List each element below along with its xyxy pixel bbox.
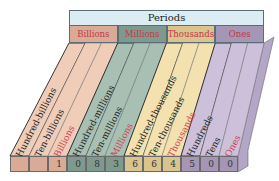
periods-header: Periods bbox=[69, 10, 264, 26]
digit-cell: 4 bbox=[162, 156, 181, 172]
digit-cell: 3 bbox=[105, 156, 124, 172]
digit-cell: 0 bbox=[219, 156, 238, 172]
digit-cell: 0 bbox=[200, 156, 219, 172]
digit-cell: 6 bbox=[124, 156, 143, 172]
digit-cell: 5 bbox=[181, 156, 200, 172]
digit-cell: 8 bbox=[86, 156, 105, 172]
digit-cell bbox=[29, 156, 48, 172]
period-millions: Millions bbox=[118, 26, 167, 43]
digit-cell: 0 bbox=[67, 156, 86, 172]
digit-cell: 1 bbox=[48, 156, 67, 172]
period-billions: Billions bbox=[69, 26, 118, 43]
digit-cell: 6 bbox=[143, 156, 162, 172]
place-value-chart: Periods BillionsMillionsThousandsOnes Hu… bbox=[0, 0, 279, 181]
period-thousands: Thousands bbox=[167, 26, 216, 43]
digit-cell bbox=[10, 156, 29, 172]
period-ones: Ones bbox=[215, 26, 264, 43]
